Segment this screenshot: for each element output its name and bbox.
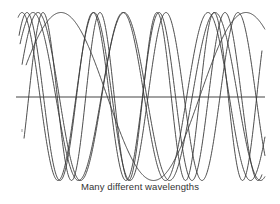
figure-caption: Many different wavelengths xyxy=(0,181,280,192)
wavelength-diagram xyxy=(0,0,280,204)
scan-speck xyxy=(21,129,23,132)
